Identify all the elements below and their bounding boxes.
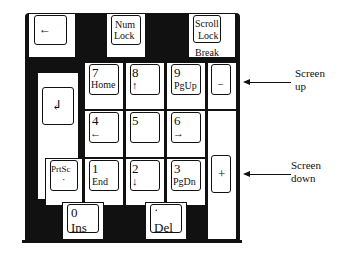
keyboard-base-line [22, 240, 242, 243]
key-1-end[interactable]: 1 End [84, 158, 124, 206]
key-4-left[interactable]: 4 ← [84, 110, 124, 158]
key-plus[interactable]: + [207, 110, 237, 240]
key-dot-del[interactable]: · Del [145, 202, 187, 240]
right-arrow-icon: → [173, 128, 184, 139]
key-backspace[interactable]: ← [28, 13, 76, 58]
key-scrolllock[interactable]: Scroll Lock Break [188, 13, 236, 58]
up-arrow-icon: ↑ [132, 80, 138, 91]
key-7-home[interactable]: 7 Home [84, 62, 124, 110]
key-minus[interactable]: – [207, 62, 237, 110]
key-5[interactable]: 5 [125, 110, 165, 158]
screen-down-leader-line [249, 174, 291, 175]
key-9-pgup[interactable]: 9 PgUp [166, 62, 206, 110]
key-numlock[interactable]: Num Lock [106, 13, 146, 58]
down-arrow-icon: ↓ [132, 176, 138, 187]
key-prtsc[interactable]: PrtSc · [45, 158, 83, 206]
key-6-right[interactable]: 6 → [166, 110, 206, 158]
left-arrow-icon: ← [90, 128, 101, 139]
screen-up-leader-line [249, 82, 291, 83]
left-arrow-icon: ← [39, 24, 51, 35]
key-0-ins[interactable]: 0 Ins [62, 202, 104, 240]
key-2-down[interactable]: 2 ↓ [125, 158, 165, 206]
key-3-pgdn[interactable]: 3 PgDn [166, 158, 206, 206]
key-8-up[interactable]: 8 ↑ [125, 62, 165, 110]
screen-up-label: Screen up [295, 67, 325, 93]
enter-icon: ↲ [51, 100, 63, 111]
screen-down-label: Screen down [291, 159, 321, 185]
